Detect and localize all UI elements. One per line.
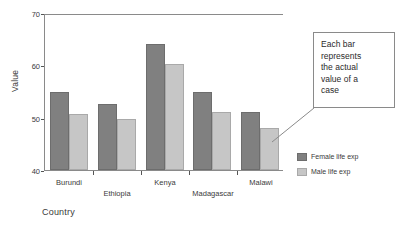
x-tick-label-burundi: Burundi	[56, 178, 82, 187]
x-tick-label-kenya: Kenya	[154, 178, 175, 187]
bar-madagascar-male	[212, 112, 231, 170]
callout-line-1: Each bar	[321, 39, 388, 51]
chart-legend: Female life exp Male life exp	[297, 150, 358, 180]
x-tick-label-madagascar: Madagascar	[192, 189, 233, 198]
x-tick-mark-2	[141, 171, 142, 175]
plot-area	[44, 14, 283, 171]
bar-malawi-female	[241, 112, 260, 170]
x-tick-label-malawi: Malawi	[249, 178, 272, 187]
legend-swatch-female-icon	[297, 153, 307, 161]
y-tick-label-50: 50	[22, 116, 40, 124]
bar-burundi-female	[50, 92, 69, 171]
bar-kenya-female	[146, 44, 165, 170]
x-axis-title: Country	[42, 207, 75, 217]
callout-annotation: Each bar represents the actual value of …	[313, 32, 395, 108]
y-tick-label-40: 40	[22, 168, 40, 176]
x-tick-mark-3	[189, 171, 190, 175]
legend-swatch-male-icon	[297, 168, 307, 176]
bar-group	[193, 15, 231, 170]
callout-line-4: value of a	[321, 74, 388, 86]
legend-item-male: Male life exp	[297, 165, 358, 178]
chart-figure: Value 70 60 50 40 Burundi Ethiopia Kenya…	[0, 0, 409, 233]
legend-label-female: Female life exp	[311, 153, 358, 160]
y-tick-label-70: 70	[22, 11, 40, 19]
bar-madagascar-female	[193, 92, 212, 171]
callout-text: Each bar represents the actual value of …	[321, 39, 388, 97]
callout-line-5: case	[321, 85, 388, 97]
y-tick-mark-40	[41, 171, 44, 172]
bar-ethiopia-female	[98, 104, 117, 170]
bar-ethiopia-male	[117, 119, 136, 170]
legend-item-female: Female life exp	[297, 150, 358, 163]
y-axis-title: Value	[10, 78, 20, 92]
bar-burundi-male	[69, 114, 88, 170]
x-tick-mark-4	[237, 171, 238, 175]
bars-layer	[45, 15, 283, 170]
x-tick-label-ethiopia: Ethiopia	[103, 189, 130, 198]
callout-line-3: the actual	[321, 62, 388, 74]
bar-group	[146, 15, 184, 170]
callout-pointer-line	[266, 100, 320, 148]
bar-kenya-male	[165, 64, 184, 170]
legend-label-male: Male life exp	[311, 168, 350, 175]
x-tick-mark-1	[93, 171, 94, 175]
callout-line-2: represents	[321, 51, 388, 63]
bar-group	[98, 15, 136, 170]
y-tick-label-60: 60	[22, 63, 40, 71]
y-axis-ticks: 70 60 50 40	[20, 0, 40, 233]
bar-group	[50, 15, 88, 170]
